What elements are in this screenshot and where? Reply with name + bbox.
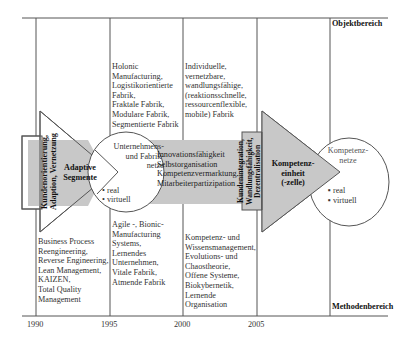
top-col3-text: Individuelle, vernetzbare, wandlungsfähi… — [185, 62, 247, 120]
tick-1990: 1990 — [27, 320, 43, 329]
arrow2-vertical-label: Kundenintegration, Wandlungsfähigkeit, D… — [237, 132, 263, 210]
circle2-bullet-virtuell: ▪ virtuell — [328, 196, 357, 206]
arrow2-title: Kompetenz- einheit (-zelle) — [262, 159, 324, 188]
band-text: Innovationsfähigkeit Selbstorganisation … — [157, 150, 237, 188]
circle2-title: Kompetenz- netze — [318, 146, 378, 165]
top-col2-text: Holonic Manufacturing, Logistikorientier… — [112, 62, 179, 129]
tick-1995: 1995 — [101, 320, 117, 329]
bottom-col3-text: Kompetenz- und Wissensmanagement, Evolut… — [185, 233, 256, 310]
circle2-bullet-real: ▪ real — [328, 186, 345, 196]
circle1-bullet-virtuell: • virtuell — [102, 195, 131, 205]
bottom-col1-text: Business Process Reengineering, Reverse … — [38, 237, 108, 304]
circle1-title: Unternehmens- und Fabrik- netze — [88, 142, 164, 171]
arrow1-vertical-label: Kundenorientierung, Adaption, Vernetzung — [40, 133, 58, 211]
bottom-col2-text: Agile -, Bionic- Manufacturing Systems, … — [112, 220, 165, 287]
methodenbereich-label: Methodenbereich — [332, 302, 393, 312]
tick-2005: 2005 — [248, 320, 264, 329]
objektbereich-label: Objektbereich — [332, 19, 382, 29]
tick-2000: 2000 — [174, 320, 190, 329]
